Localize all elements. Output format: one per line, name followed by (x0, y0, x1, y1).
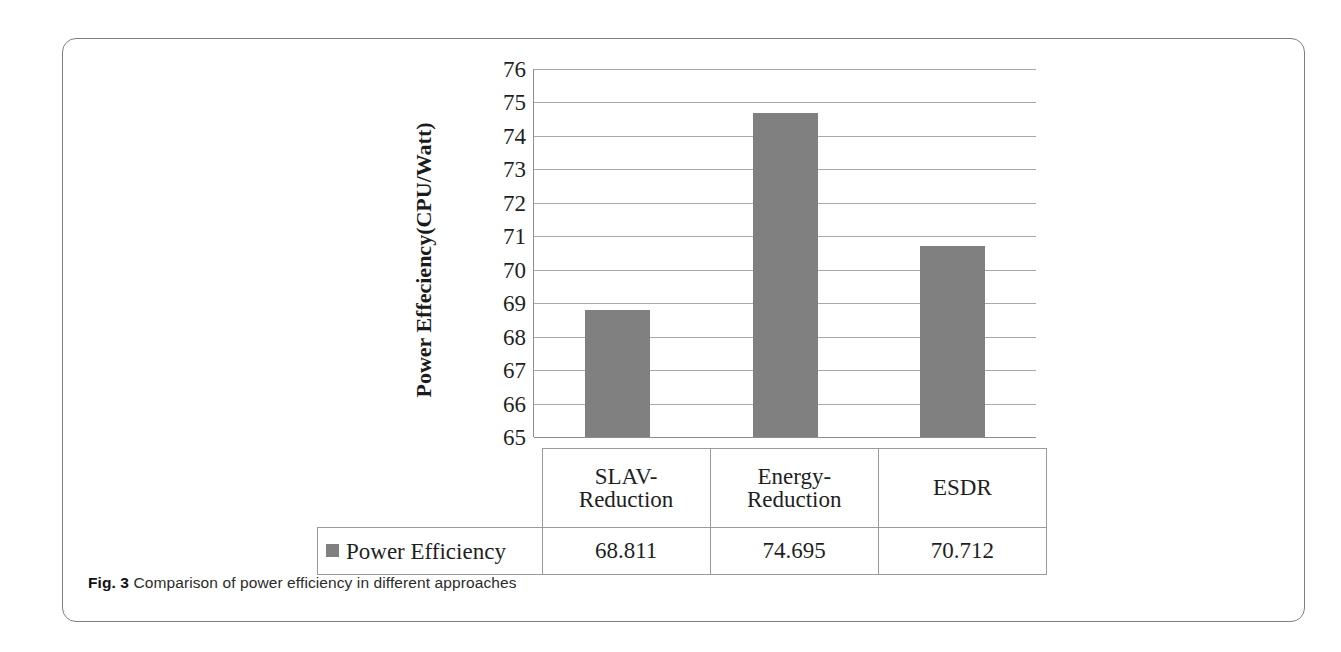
y-axis-title: Power Effeciency(CPU/Watt) (408, 60, 440, 460)
table-category-cell: SLAV-Reduction (542, 449, 710, 528)
table-row-categories: SLAV-ReductionEnergy-ReductionESDR (318, 449, 1047, 528)
table-category-line: SLAV- (543, 465, 710, 488)
table-category-cell: Energy-Reduction (710, 449, 878, 528)
y-axis-tick-label: 76 (470, 58, 526, 81)
figure-label: Fig. 3 (88, 574, 129, 591)
table-category-line: Reduction (543, 488, 710, 511)
legend-label: Power Efficiency (346, 539, 506, 564)
table-corner-cell (318, 449, 543, 528)
chart-plot-area (533, 69, 1035, 437)
legend-entry-power-efficiency: Power Efficiency (318, 528, 543, 575)
y-axis-tick-label: 69 (470, 292, 526, 315)
y-axis-tick-label: 70 (470, 259, 526, 282)
table-value-cell: 68.811 (542, 528, 710, 575)
legend-swatch-icon (326, 544, 339, 557)
chart-gridline (534, 69, 1036, 70)
y-axis-tick-label: 68 (470, 326, 526, 349)
chart-bar (920, 246, 985, 437)
chart-data-table: SLAV-ReductionEnergy-ReductionESDR Power… (317, 448, 1047, 575)
y-axis-tick-label: 65 (470, 426, 526, 449)
chart-gridline (534, 102, 1036, 103)
y-axis-tick-label: 66 (470, 393, 526, 416)
y-axis-tick-label: 72 (470, 192, 526, 215)
y-axis-tick-labels: 767574737271706968676665 (470, 56, 526, 452)
y-axis-tick-label: 74 (470, 125, 526, 148)
figure-caption-text: Comparison of power efficiency in differ… (134, 574, 517, 591)
table-category-cell: ESDR (878, 449, 1046, 528)
y-axis-tick-label: 75 (470, 91, 526, 114)
table-value-cell: 74.695 (710, 528, 878, 575)
chart-figure-image: Power Effeciency(CPU/Watt) 7675747372717… (0, 0, 1341, 652)
table-value-cell: 70.712 (878, 528, 1046, 575)
chart-bar (585, 310, 650, 437)
table-category-line: Reduction (711, 488, 878, 511)
chart-gridline (534, 437, 1036, 438)
y-axis-tick-label: 71 (470, 225, 526, 248)
table-row-values: Power Efficiency 68.81174.69570.712 (318, 528, 1047, 575)
figure-caption: Fig. 3 Comparison of power efficiency in… (88, 574, 517, 592)
chart-bar (753, 113, 818, 437)
y-axis-tick-label: 67 (470, 359, 526, 382)
table-category-line: Energy- (711, 465, 878, 488)
y-axis-tick-label: 73 (470, 158, 526, 181)
table-category-line: ESDR (879, 476, 1046, 499)
